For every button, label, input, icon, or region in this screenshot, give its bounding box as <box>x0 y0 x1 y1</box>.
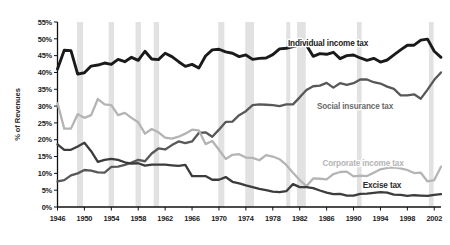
x-tick-label: 1982 <box>292 214 308 223</box>
y-tick-label: 10% <box>38 169 53 178</box>
y-tick-label: 50% <box>38 35 53 44</box>
series-label-corporate-income-tax: Corporate income tax <box>322 159 404 168</box>
chart-container: 0%5%10%15%20%25%30%35%40%45%50%55% 19461… <box>0 0 450 245</box>
y-tick-label: 45% <box>38 51 53 60</box>
x-tick-label: 1978 <box>265 214 281 223</box>
x-tick-label: 1950 <box>77 214 93 223</box>
x-axis-tick-labels: 1946195019541958196219661970197419781982… <box>50 214 443 223</box>
y-tick-label: 25% <box>38 119 53 128</box>
y-tick-label: 30% <box>38 102 53 111</box>
series-label-social-insurance-tax: Social insurance tax <box>317 102 394 111</box>
recession-band <box>109 22 114 207</box>
recession-bands <box>77 22 434 207</box>
x-tick-label: 1998 <box>400 214 416 223</box>
revenue-composition-line-chart: 0%5%10%15%20%25%30%35%40%45%50%55% 19461… <box>0 0 450 245</box>
recession-band <box>286 22 290 207</box>
recession-band <box>357 22 362 207</box>
y-tick-label: 40% <box>38 68 53 77</box>
x-tick-label: 1990 <box>346 214 362 223</box>
x-tick-label: 1946 <box>50 214 66 223</box>
recession-band <box>245 22 254 207</box>
y-axis-title: % of Revenues <box>13 88 22 141</box>
x-tick-label: 1986 <box>319 214 335 223</box>
y-tick-label: 15% <box>38 152 53 161</box>
y-tick-label: 20% <box>38 135 53 144</box>
y-tick-label: 35% <box>38 85 53 94</box>
series-label-individual-income-tax: Individual income tax <box>288 39 369 48</box>
x-tick-label: 1970 <box>211 214 227 223</box>
y-tick-label: 0% <box>42 203 53 212</box>
x-tick-label: 1966 <box>184 214 200 223</box>
recession-band <box>154 22 159 207</box>
x-tick-label: 1958 <box>130 214 146 223</box>
x-tick-label: 1962 <box>157 214 173 223</box>
y-tick-label: 5% <box>42 186 53 195</box>
x-tick-label: 2002 <box>426 214 442 223</box>
x-tick-label: 1974 <box>238 214 255 223</box>
x-tick-label: 1994 <box>373 214 390 223</box>
x-tick-label: 1954 <box>103 214 120 223</box>
series-label-excise-tax: Excise tax <box>363 181 402 190</box>
recession-band <box>136 22 141 207</box>
y-tick-label: 55% <box>38 18 53 27</box>
y-axis-tick-labels: 0%5%10%15%20%25%30%35%40%45%50%55% <box>38 18 53 212</box>
